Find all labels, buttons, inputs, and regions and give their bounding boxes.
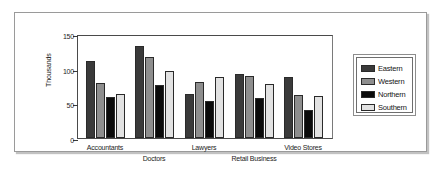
x-axis-label: Retail Business <box>231 155 276 162</box>
bar[interactable] <box>314 96 323 138</box>
legend-item[interactable]: Northern <box>361 88 408 100</box>
bar-group <box>135 36 175 138</box>
figure-frame: Thousands 050100150 AccountantsDoctorsLa… <box>14 12 427 152</box>
bar[interactable] <box>294 95 303 138</box>
legend-item-label: Northern <box>378 90 406 99</box>
legend-swatch-icon <box>361 104 375 111</box>
legend-swatch-icon <box>361 65 375 72</box>
bar[interactable] <box>195 82 204 138</box>
bar[interactable] <box>235 74 244 138</box>
x-axis-label: Video Stores <box>284 144 322 151</box>
bar[interactable] <box>165 71 174 138</box>
legend-item-label: Western <box>378 77 404 86</box>
bar[interactable] <box>255 98 264 138</box>
legend-item[interactable]: Western <box>361 75 408 87</box>
chart-legend: EasternWesternNorthernSouthern <box>353 54 416 116</box>
y-axis-tick-label: 100 <box>63 67 74 74</box>
legend-item-label: Southern <box>378 103 407 112</box>
x-axis-label: Doctors <box>143 155 166 162</box>
y-axis-tick-label: 150 <box>63 33 74 40</box>
bar-group <box>284 36 324 138</box>
y-axis-tick-label: 50 <box>67 102 74 109</box>
legend-item[interactable]: Eastern <box>361 62 408 74</box>
bar-group <box>235 36 275 138</box>
x-axis-label: Accountants <box>87 144 123 151</box>
x-axis-label: Lawyers <box>192 144 217 151</box>
bar[interactable] <box>205 101 214 138</box>
plot-area: 050100150 <box>77 35 333 139</box>
bar[interactable] <box>265 84 274 138</box>
bar[interactable] <box>106 97 115 138</box>
bar[interactable] <box>86 61 95 138</box>
bar[interactable] <box>145 57 154 138</box>
bar[interactable] <box>116 94 125 138</box>
legend-item-label: Eastern <box>378 64 402 73</box>
bar[interactable] <box>96 83 105 138</box>
legend-swatch-icon <box>361 91 375 98</box>
bar[interactable] <box>215 77 224 138</box>
x-axis-labels: AccountantsDoctorsLawyersRetail Business… <box>77 140 333 168</box>
bar[interactable] <box>135 46 144 138</box>
bar[interactable] <box>245 76 254 138</box>
bar-group <box>86 36 126 138</box>
legend-item[interactable]: Southern <box>361 101 408 113</box>
bar-group <box>185 36 225 138</box>
y-axis-title: Thousands <box>45 53 52 87</box>
bar[interactable] <box>185 94 194 138</box>
y-axis-tick-label: 0 <box>70 137 74 144</box>
bar[interactable] <box>155 85 164 138</box>
chart-legend-inner: EasternWesternNorthernSouthern <box>356 57 413 113</box>
bar[interactable] <box>284 77 293 138</box>
bar-series-container <box>78 36 332 138</box>
legend-swatch-icon <box>361 78 375 85</box>
chart-screenshot: Thousands 050100150 AccountantsDoctorsLa… <box>0 0 445 170</box>
bar[interactable] <box>304 110 313 138</box>
